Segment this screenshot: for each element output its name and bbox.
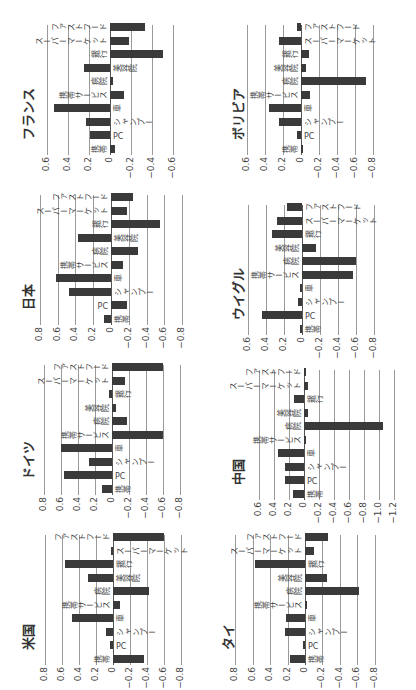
bar [302,271,353,279]
tick-label: −0.6 [158,667,168,690]
category-label: 携帯 [307,490,323,499]
category-label: 携帯サービス [254,601,302,610]
chart-title: 米国 [18,624,37,650]
chart-title: 中国 [228,459,247,485]
category-label: 車 [308,615,316,624]
category-label: 携帯 [91,145,107,154]
bar [300,325,302,333]
bar [304,436,306,444]
category-label: スーパーマーケット [36,207,108,216]
gridline [180,365,181,495]
bar [293,490,304,498]
category-label: ファストフード [51,24,107,33]
bar [113,655,144,663]
bar [287,204,302,212]
category-label: 銀行 [116,561,132,570]
category-label: 携帯 [308,655,324,664]
category-label: 病院 [92,248,108,257]
category-label: 銀行 [92,221,108,230]
bar [102,485,112,493]
category-label: 銀行 [308,561,324,570]
bar [89,458,112,466]
gridline [129,195,130,325]
gridline [96,535,97,665]
category-label: 携帯サービス [251,271,299,280]
gridline [173,25,174,155]
category-label: 携帯 [114,315,130,324]
bar [304,409,308,417]
bar [301,145,303,153]
category-label: 美容院 [275,244,299,253]
gridline [322,535,323,665]
category-label: 携帯 [115,485,131,494]
tick-label: −0.4 [141,667,151,690]
category-label: 携帯サービス [59,91,107,100]
category-label: 美容院 [114,234,138,243]
category-label: シャンプー [304,118,344,127]
category-label: 銀行 [115,391,131,400]
bar [301,64,306,72]
bar [305,534,328,542]
bar [301,91,310,99]
bar [302,258,356,266]
bar [111,261,123,269]
category-label: 車 [113,105,121,114]
bar [294,396,304,404]
tick-label: −0.4 [334,667,344,690]
chart-panel: ウイグル0.60.40.20−0.2−0.4−0.6−0.8携帯PCシャンプー車… [210,190,416,355]
bar [110,78,113,86]
bar [110,37,129,45]
category-label: スーパーマーケット [229,382,301,391]
category-label: PC [307,477,317,486]
zero-line [301,25,302,155]
bar [304,382,308,390]
category-label: 車 [114,275,122,284]
tick-label: −0.6 [349,157,359,187]
category-label: ファストフード [305,204,361,213]
category-label: 携帯サービス [60,261,108,270]
bar [69,288,111,296]
chart-title: ウイグル [228,268,247,320]
bar [106,628,113,636]
bar [279,37,302,45]
chart-title: フランス [18,88,37,140]
bar [297,132,302,140]
bar [78,234,111,242]
gridline [147,195,148,325]
tick-label: 0.6 [247,667,257,690]
bar [301,51,309,59]
category-label: 病院 [282,78,298,87]
category-label: 銀行 [307,396,323,405]
category-label: 車 [307,450,315,459]
tick-label: 0 [295,157,305,187]
category-label: シャンプー [113,118,153,127]
bar [110,51,163,59]
gridline [375,535,376,665]
category-label: シャンプー [115,458,155,467]
bar [285,477,304,485]
category-label: 車 [305,285,313,294]
bar [110,24,145,32]
category-label: スーパーマーケット [116,547,188,556]
category-label: 携帯 [282,145,298,154]
bar [110,145,115,153]
bar [304,423,383,431]
category-label: PC [115,472,125,481]
bar [302,244,316,252]
bar [269,105,301,113]
chart-panel: 米国0.80.60.40.20−0.2−0.4−0.6−0.8携帯PCシャンプー… [0,520,210,685]
bar [72,615,113,623]
chart-panel: タイ0.80.60.40.20−0.2−0.4−0.6−0.8携帯PCシャンプー… [200,520,410,685]
tick-label: 0.2 [277,157,287,187]
bar [64,472,112,480]
bar [86,118,110,126]
category-label: ファストフード [54,534,110,543]
bar [111,547,113,555]
gridline [394,370,395,500]
bar [305,547,314,555]
category-label: シャンプー [307,463,347,472]
gridline [334,370,335,500]
gridline [248,205,249,335]
bar [277,217,302,225]
gridline [163,365,164,495]
